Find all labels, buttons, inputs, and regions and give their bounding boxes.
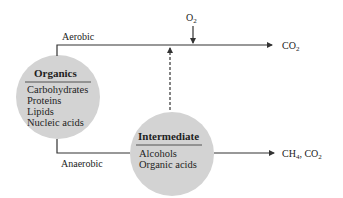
o2-label: O2 bbox=[186, 12, 197, 23]
organics-item: Proteins bbox=[27, 95, 61, 107]
intermediate-title: Intermediate bbox=[138, 131, 199, 143]
aerobic-label: Aerobic bbox=[62, 31, 94, 42]
anaerobic-line bbox=[57, 139, 130, 153]
aerobic-line bbox=[57, 45, 272, 56]
organics-item: Lipids bbox=[27, 106, 54, 118]
intermediate-item: Organic acids bbox=[139, 159, 197, 171]
co2-output-label: CO2 bbox=[282, 40, 299, 51]
organics-item: Nucleic acids bbox=[27, 117, 84, 129]
intermediate-item: Alcohols bbox=[139, 148, 177, 160]
organics-item: Carbohydrates bbox=[27, 84, 88, 96]
anaerobic-label: Anaerobic bbox=[61, 158, 103, 169]
ch4-co2-output-label: CH4, CO2 bbox=[282, 148, 322, 159]
organics-title: Organics bbox=[34, 68, 77, 80]
